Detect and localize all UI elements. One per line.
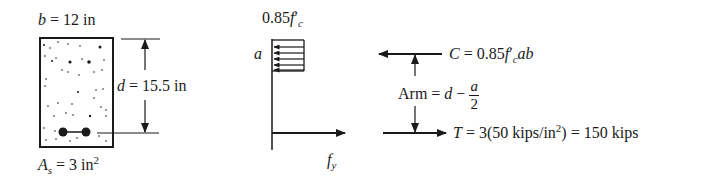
tension-force-label: T = 3(50 kips/in2) = 150 kips bbox=[453, 125, 638, 141]
lever-arm-label: Arm = d − a2 bbox=[398, 79, 479, 112]
a-over-2-fraction: a2 bbox=[469, 79, 479, 112]
concrete-stress-label: 0.85f′c bbox=[262, 10, 303, 26]
depth-label: d = 15.5 in bbox=[117, 78, 186, 94]
diagram-canvas bbox=[0, 0, 725, 183]
beam-cross-section bbox=[40, 38, 113, 147]
compression-force-label: C = 0.85f′cab bbox=[449, 46, 534, 62]
stress-block-depth-label: a bbox=[254, 46, 262, 62]
steel-yield-label: fy bbox=[327, 152, 336, 168]
width-label: b = 12 in bbox=[38, 12, 95, 28]
stress-diagram bbox=[272, 39, 345, 150]
steel-area-label: As = 3 in2 bbox=[38, 157, 99, 173]
compression-stress-arrows bbox=[274, 47, 304, 70]
